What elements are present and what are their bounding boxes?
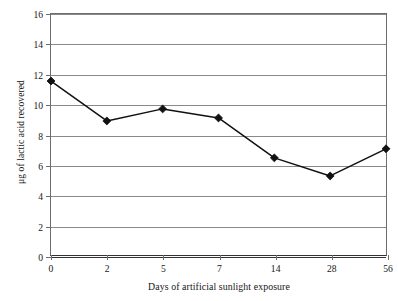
x-axis-title: Days of artificial sunlight exposure — [50, 281, 388, 292]
y-axis-tick-mark — [46, 166, 51, 167]
x-axis-tick-mark — [107, 255, 108, 260]
x-axis-tick-label: 56 — [383, 263, 393, 274]
data-point-marker — [326, 172, 334, 180]
data-series-line — [51, 14, 386, 255]
x-axis-tick-label: 2 — [105, 263, 110, 274]
x-axis-tick-label: 7 — [217, 263, 222, 274]
gridline — [51, 257, 386, 258]
x-axis-tick-label: 14 — [271, 263, 281, 274]
x-axis-tick-mark — [276, 255, 277, 260]
y-axis-tick-label: 0 — [38, 252, 43, 263]
x-axis-tick-mark — [51, 255, 52, 260]
gridline — [51, 196, 386, 197]
y-axis-tick-mark — [46, 227, 51, 228]
y-axis-tick-label: 16 — [33, 9, 43, 20]
y-axis-tick-mark — [46, 14, 51, 15]
x-axis-tick-label: 28 — [327, 263, 337, 274]
x-axis-tick-mark — [388, 255, 389, 260]
gridline — [51, 14, 386, 15]
gridline — [51, 44, 386, 45]
x-axis-tick-label: 0 — [49, 263, 54, 274]
x-axis-tick-mark — [332, 255, 333, 260]
y-axis-tick-label: 12 — [33, 69, 43, 80]
y-axis-tick-label: 10 — [33, 100, 43, 111]
y-axis-tick-mark — [46, 196, 51, 197]
data-point-marker — [270, 154, 278, 162]
gridline — [51, 105, 386, 106]
y-axis-tick-label: 14 — [33, 39, 43, 50]
gridline — [51, 136, 386, 137]
gridline — [51, 166, 386, 167]
gridline — [51, 227, 386, 228]
data-point-marker — [47, 77, 55, 85]
y-axis-tick-mark — [46, 44, 51, 45]
data-point-marker — [382, 145, 390, 153]
x-axis-tick-mark — [163, 255, 164, 260]
y-axis-tick-label: 2 — [38, 221, 43, 232]
y-axis-tick-label: 6 — [38, 160, 43, 171]
x-axis-tick-mark — [220, 255, 221, 260]
y-axis-tick-label: 8 — [38, 130, 43, 141]
gridline — [51, 75, 386, 76]
y-axis-tick-mark — [46, 75, 51, 76]
x-axis-tick-label: 5 — [161, 263, 166, 274]
y-axis-tick-mark — [46, 105, 51, 106]
data-point-marker — [103, 117, 111, 125]
y-axis-title: μg of lactic acid recovered — [16, 32, 26, 232]
chart-container: μg of lactic acid recovered 024681012141… — [0, 0, 398, 301]
series-polyline — [51, 81, 386, 176]
plot-area: 0246810121416 0257142856 — [50, 13, 387, 256]
y-axis-tick-label: 4 — [38, 191, 43, 202]
data-point-marker — [215, 114, 223, 122]
y-axis-tick-mark — [46, 136, 51, 137]
